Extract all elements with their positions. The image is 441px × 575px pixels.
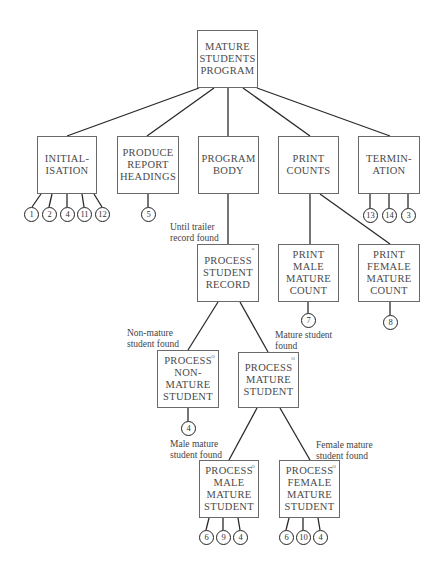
operation-circle: 14 <box>382 208 397 223</box>
node-print-male-mature-count: PRINT MALE MATURE COUNT <box>278 244 339 302</box>
node-label: PRINT COUNTS <box>287 153 331 177</box>
node-process-student-record: * PROCESS STUDENT RECORD <box>197 244 259 302</box>
node-termination: TERMIN- ATION <box>358 136 420 194</box>
operation-circle: 12 <box>95 207 110 222</box>
condition-non-mature-found: Non-mature student found <box>127 328 179 350</box>
node-label: PROGRAM BODY <box>201 153 255 177</box>
node-produce-report-headings: PRODUCE REPORT HEADINGS <box>117 136 179 194</box>
operation-circle: 2 <box>42 207 57 222</box>
selection-marker-icon: o <box>251 462 255 470</box>
node-initialisation: INITIAL- ISATION <box>37 136 97 194</box>
node-label: PROCESS MATURE STUDENT <box>244 362 294 398</box>
operation-circle: 1 <box>24 207 39 222</box>
node-label: PROCESS STUDENT RECORD <box>203 255 253 291</box>
condition-female-mature-found: Female mature student found <box>316 440 373 462</box>
operation-circle: 11 <box>77 207 92 222</box>
operation-circle: 6 <box>199 530 214 545</box>
node-process-mature-student: o PROCESS MATURE STUDENT <box>238 352 299 408</box>
node-process-male-mature-student: o PROCESS MALE MATURE STUDENT <box>199 460 259 518</box>
condition-mature-found: Mature student found <box>275 330 332 352</box>
node-label: PROCESS NON- MATURE STUDENT <box>163 355 213 403</box>
operation-circle: 13 <box>363 208 378 223</box>
node-mature-students-program: MATURE STUDENTS PROGRAM <box>197 30 258 88</box>
operation-circle: 8 <box>383 315 398 330</box>
operation-circle: 4 <box>233 530 248 545</box>
selection-marker-icon: o <box>332 462 336 470</box>
node-label: MATURE STUDENTS PROGRAM <box>199 41 255 77</box>
operation-circle: 10 <box>296 530 311 545</box>
operation-circle: 4 <box>181 421 196 436</box>
node-process-female-mature-student: o PROCESS FEMALE MATURE STUDENT <box>279 460 340 518</box>
node-label: INITIAL- ISATION <box>45 153 89 177</box>
condition-male-mature-found: Male mature student found <box>170 439 222 461</box>
operation-circle: 9 <box>216 530 231 545</box>
operation-circle: 6 <box>279 530 294 545</box>
selection-marker-icon: o <box>291 354 295 362</box>
node-label: PROCESS MALE MATURE STUDENT <box>204 465 254 513</box>
operation-circle: 3 <box>401 208 416 223</box>
node-print-female-mature-count: PRINT FEMALE MATURE COUNT <box>358 244 420 302</box>
node-print-counts: PRINT COUNTS <box>278 136 339 194</box>
operation-circle: 4 <box>313 530 328 545</box>
node-label: PROCESS FEMALE MATURE STUDENT <box>285 465 335 513</box>
node-label: PRINT MALE MATURE COUNT <box>286 249 331 297</box>
node-process-non-mature-student: o PROCESS NON- MATURE STUDENT <box>157 350 219 408</box>
selection-marker-icon: o <box>211 352 215 360</box>
node-label: PRODUCE REPORT HEADINGS <box>120 147 176 183</box>
node-label: PRINT FEMALE MATURE COUNT <box>367 249 412 297</box>
operation-circle: 7 <box>301 313 316 328</box>
condition-until-trailer: Until trailer record found <box>170 222 219 244</box>
node-program-body: PROGRAM BODY <box>198 136 259 194</box>
node-label: TERMIN- ATION <box>366 153 412 177</box>
operation-circle: 5 <box>141 207 156 222</box>
iteration-marker-icon: * <box>251 246 255 254</box>
operation-circle: 4 <box>60 207 75 222</box>
